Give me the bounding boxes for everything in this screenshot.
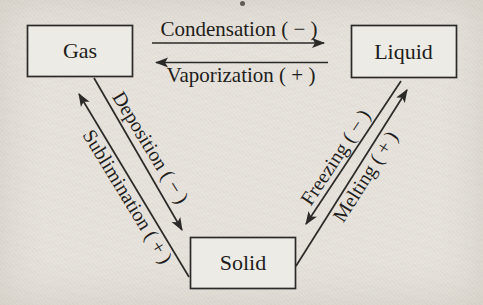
solid-label: Solid [220, 250, 266, 275]
gas-label: Gas [63, 38, 97, 63]
condensation-label: Condensation ( − ) [160, 17, 317, 41]
phase-diagram: Gas Liquid Solid Condensation ( − ) Vapo… [0, 0, 483, 305]
liquid-label: Liquid [374, 39, 433, 64]
scanned-phase-diagram-page: Gas Liquid Solid Condensation ( − ) Vapo… [0, 0, 483, 305]
vaporization-label: Vaporization ( + ) [167, 63, 316, 87]
